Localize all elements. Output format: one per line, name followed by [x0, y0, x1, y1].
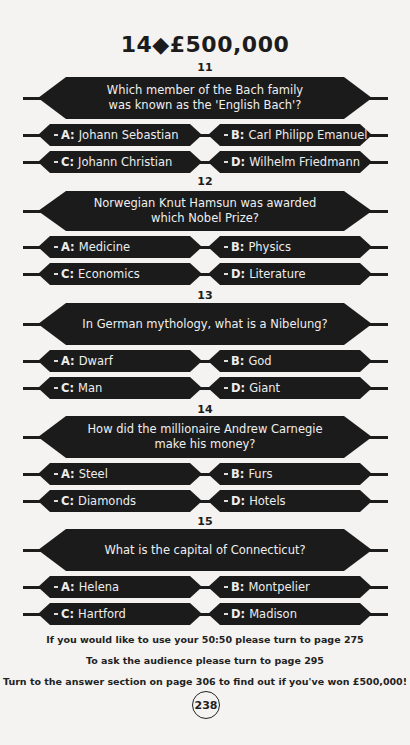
answer-text: Economics	[78, 267, 140, 281]
answer-option-d[interactable]: D:Giant	[208, 377, 372, 399]
answer-option-c[interactable]: C:Hartford	[38, 603, 202, 625]
answer-option-b[interactable]: B:Montpelier	[208, 576, 372, 598]
answer-text: Madison	[249, 607, 297, 621]
answer-text: Montpelier	[248, 580, 309, 594]
answer-letter: D:	[231, 155, 245, 169]
question-number: 11	[0, 61, 410, 74]
book-page: 14◆£500,000 11 Which member of the Bach …	[0, 0, 410, 745]
bullet-icon	[224, 134, 228, 136]
answer-letter: A:	[61, 240, 75, 254]
question-box: What is the capital of Connecticut?	[38, 529, 372, 571]
answer-option-a[interactable]: A:Steel	[38, 463, 202, 485]
answer-option-d[interactable]: D:Literature	[208, 263, 372, 285]
answer-option-a[interactable]: A:Medicine	[38, 236, 202, 258]
question-number: 14	[0, 403, 410, 416]
answer-text: Physics	[248, 240, 291, 254]
answer-option-b[interactable]: B:Furs	[208, 463, 372, 485]
question-text-line: What is the capital of Connecticut?	[82, 543, 327, 558]
answer-option-c[interactable]: C:Man	[38, 377, 202, 399]
answer-option-b[interactable]: B:God	[208, 350, 372, 372]
answer-text: Wilhelm Friedmann	[249, 155, 360, 169]
bullet-icon	[54, 360, 58, 362]
page-title: 14◆£500,000	[0, 32, 410, 57]
bullet-icon	[224, 246, 228, 248]
answer-letter: D:	[231, 267, 245, 281]
answer-text: God	[248, 354, 271, 368]
answer-option-d[interactable]: D:Hotels	[208, 490, 372, 512]
bullet-icon	[224, 613, 228, 615]
bullet-icon	[54, 586, 58, 588]
question-text-line: How did the millionaire Andrew Carnegie …	[60, 422, 350, 452]
answer-option-c[interactable]: C:Economics	[38, 263, 202, 285]
page-number: 238	[192, 691, 220, 719]
answer-text: Johann Sebastian	[79, 128, 179, 142]
answer-option-d[interactable]: D:Madison	[208, 603, 372, 625]
bullet-icon	[224, 473, 228, 475]
lifeline-audience-instruction: To ask the audience please turn to page …	[0, 655, 410, 666]
lifeline-5050-instruction: If you would like to use your 50:50 plea…	[0, 634, 410, 645]
answer-option-d[interactable]: D:Wilhelm Friedmann	[208, 151, 372, 173]
answer-letter: B:	[231, 240, 244, 254]
question-number: 13	[0, 289, 410, 302]
answer-option-c[interactable]: C:Diamonds	[38, 490, 202, 512]
answer-letter: C:	[61, 155, 74, 169]
question-text-line: Norwegian Knut Hamsun was awarded which …	[60, 196, 350, 226]
answer-letter: A:	[61, 128, 75, 142]
answer-option-a[interactable]: A:Dwarf	[38, 350, 202, 372]
answer-text: Medicine	[79, 240, 130, 254]
bullet-icon	[54, 273, 58, 275]
question-number: 15	[0, 515, 410, 528]
answer-letter: D:	[231, 494, 245, 508]
answer-letter: B:	[231, 580, 244, 594]
question-box: Norwegian Knut Hamsun was awarded which …	[38, 191, 372, 231]
bullet-icon	[224, 586, 228, 588]
answer-letter: D:	[231, 607, 245, 621]
bullet-icon	[54, 500, 58, 502]
answer-letter: C:	[61, 381, 74, 395]
bullet-icon	[224, 161, 228, 163]
bullet-icon	[224, 387, 228, 389]
answer-letter: B:	[231, 128, 244, 142]
answer-text: Hartford	[78, 607, 126, 621]
bullet-icon	[54, 473, 58, 475]
bullet-icon	[54, 387, 58, 389]
question-box: In German mythology, what is a Nibelung?	[38, 303, 372, 345]
answer-text: Johann Christian	[78, 155, 172, 169]
bullet-icon	[54, 613, 58, 615]
answer-text: Helena	[79, 580, 119, 594]
bullet-icon	[54, 134, 58, 136]
answer-letter: B:	[231, 467, 244, 481]
answer-letter: D:	[231, 381, 245, 395]
bullet-icon	[54, 161, 58, 163]
bullet-icon	[224, 273, 228, 275]
question-text-line: was known as the 'English Bach'?	[85, 98, 325, 113]
answer-text: Steel	[79, 467, 108, 481]
answer-text: Carl Philipp Emanuel	[248, 128, 367, 142]
answer-text: Furs	[248, 467, 272, 481]
question-text-line: Which member of the Bach family	[85, 83, 325, 98]
question-number: 12	[0, 175, 410, 188]
answer-text: Literature	[249, 267, 305, 281]
bullet-icon	[224, 500, 228, 502]
bullet-icon	[54, 246, 58, 248]
answer-text: Dwarf	[79, 354, 113, 368]
answer-text: Giant	[249, 381, 280, 395]
answer-letter: C:	[61, 267, 74, 281]
answer-option-b[interactable]: B:Carl Philipp Emanuel	[208, 124, 372, 146]
answer-letter: A:	[61, 467, 75, 481]
bullet-icon	[224, 360, 228, 362]
answer-text: Hotels	[249, 494, 285, 508]
answer-option-a[interactable]: A:Johann Sebastian	[38, 124, 202, 146]
answer-option-c[interactable]: C:Johann Christian	[38, 151, 202, 173]
answer-letter: C:	[61, 494, 74, 508]
answer-text: Diamonds	[78, 494, 136, 508]
answer-letter: A:	[61, 354, 75, 368]
answer-option-b[interactable]: B:Physics	[208, 236, 372, 258]
answer-letter: C:	[61, 607, 74, 621]
answer-letter: A:	[61, 580, 75, 594]
answer-option-a[interactable]: A:Helena	[38, 576, 202, 598]
answer-letter: B:	[231, 354, 244, 368]
answer-section-instruction: Turn to the answer section on page 306 t…	[0, 676, 410, 687]
question-box: How did the millionaire Andrew Carnegie …	[38, 416, 372, 458]
question-text-line: In German mythology, what is a Nibelung?	[60, 317, 349, 332]
